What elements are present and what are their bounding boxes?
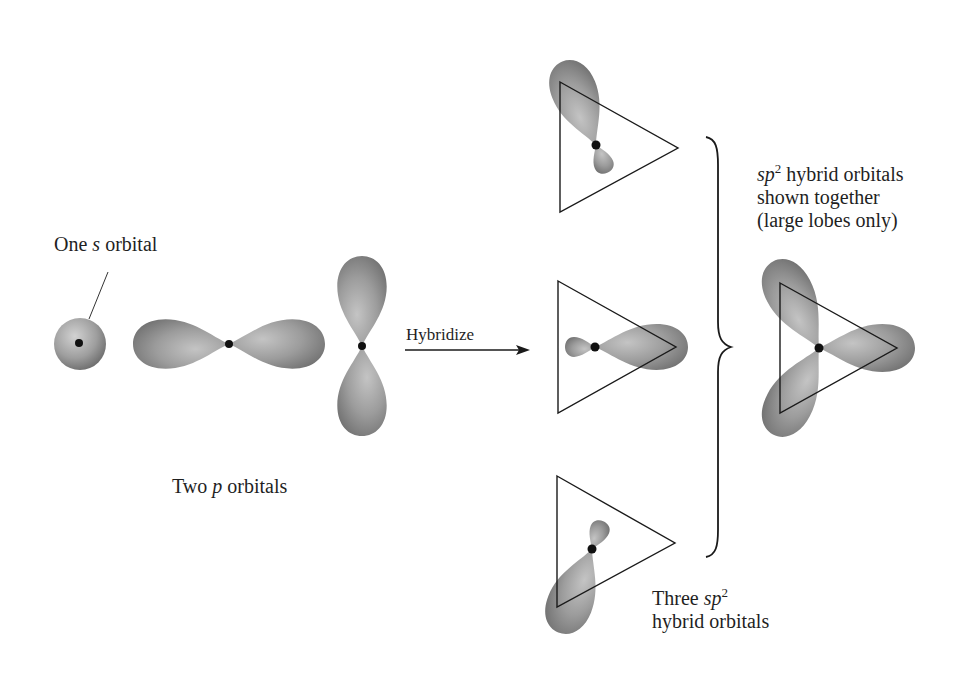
nucleus xyxy=(815,344,824,353)
lobe-upper-left xyxy=(752,250,840,359)
label-italic: p xyxy=(212,475,222,497)
label-text: orbitals xyxy=(222,475,287,497)
nucleus xyxy=(588,545,597,554)
nucleus xyxy=(591,343,600,352)
label-one-s-orbital: One s orbital xyxy=(54,233,157,256)
label-text: Three xyxy=(652,587,704,609)
nucleus xyxy=(592,141,601,150)
label-italic: s xyxy=(92,233,100,255)
small-lobe xyxy=(583,517,613,552)
lobe-lower-left xyxy=(752,337,840,446)
large-lobe xyxy=(541,53,617,154)
label-line-3: (large lobes only) xyxy=(757,209,904,232)
label-hybridize: Hybridize xyxy=(406,323,474,346)
label-text: Two xyxy=(172,475,212,497)
label-text: One xyxy=(54,233,92,255)
p-orbital-horizontal xyxy=(133,319,325,368)
label-line-1: sp2 hybrid orbitals xyxy=(757,163,904,186)
curly-brace xyxy=(706,137,731,557)
p-lobe-left xyxy=(133,319,229,368)
p-orbital-nucleus xyxy=(358,342,366,350)
label-italic: sp xyxy=(704,587,722,609)
large-lobe xyxy=(537,540,613,641)
small-lobe xyxy=(587,141,617,176)
s-orbital-nucleus xyxy=(75,339,83,347)
sp2-hybrid-middle xyxy=(558,281,688,413)
sp2-hybrid-top xyxy=(541,53,678,212)
hybridize-arrow xyxy=(405,345,530,355)
label-text: hybrid orbitals xyxy=(781,163,903,185)
label-line-2: shown together xyxy=(757,186,904,209)
label-line-1: Three sp2 xyxy=(652,587,769,610)
label-text: orbital xyxy=(100,233,157,255)
p-lobe-down xyxy=(337,346,386,436)
label-sp2-shown-together: sp2 hybrid orbitals shown together (larg… xyxy=(757,163,904,232)
s-orbital-leader-line xyxy=(89,272,108,319)
p-lobe-right xyxy=(229,319,325,368)
sp2-hybridization-diagram xyxy=(0,0,972,681)
p-orbital-nucleus xyxy=(225,340,233,348)
label-superscript: 2 xyxy=(721,585,728,600)
label-two-p-orbitals: Two p orbitals xyxy=(172,475,287,498)
p-lobe-up xyxy=(337,256,386,346)
s-orbital xyxy=(54,272,108,370)
label-line-2: hybrid orbitals xyxy=(652,610,769,633)
p-orbital-vertical xyxy=(337,256,386,436)
large-lobe xyxy=(595,324,688,370)
label-three-sp2-hybrid-orbitals: Three sp2 hybrid orbitals xyxy=(652,587,769,633)
label-italic: sp xyxy=(757,163,775,185)
sp2-combined xyxy=(752,250,915,446)
